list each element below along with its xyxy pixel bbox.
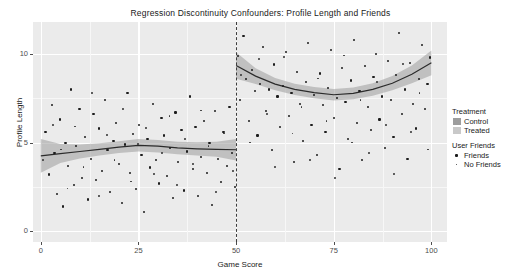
y-tick-label: 10 — [10, 49, 28, 58]
legend-swatch-icon — [452, 118, 461, 126]
data-point-no-friends — [122, 108, 124, 110]
legend-item[interactable]: No Friends — [452, 160, 521, 169]
data-point-no-friends — [368, 152, 370, 154]
data-point-friends — [353, 39, 355, 41]
x-tickmark — [138, 242, 139, 245]
data-point-friends — [344, 101, 346, 103]
data-point-friends — [415, 127, 417, 129]
data-point-friends — [138, 124, 140, 126]
legend-group-title: Treatment — [452, 107, 521, 116]
data-point-no-friends — [106, 134, 108, 136]
x-tick-label: 0 — [26, 246, 56, 255]
data-point-friends — [256, 134, 258, 136]
data-point-no-friends — [309, 159, 311, 161]
y-axis-title: Profile Length — [15, 63, 24, 183]
x-tick-label: 75 — [319, 246, 349, 255]
legend-item[interactable]: Control — [452, 117, 521, 126]
data-point-friends — [310, 124, 312, 126]
data-point-friends — [140, 154, 142, 156]
data-point-friends — [44, 131, 46, 133]
data-point-friends — [421, 44, 423, 46]
data-point-friends — [424, 108, 426, 110]
legend-group: User FriendsFriendsNo Friends — [452, 141, 521, 169]
x-axis-title: Game Score — [0, 260, 480, 269]
data-point-friends — [158, 182, 160, 184]
data-point-no-friends — [91, 92, 93, 94]
data-point-friends — [118, 163, 120, 165]
data-point-friends — [48, 173, 50, 175]
data-point-friends — [268, 88, 270, 90]
x-tick-label: 25 — [123, 246, 153, 255]
data-point-friends — [90, 158, 92, 160]
data-point-friends — [180, 129, 182, 131]
data-point-friends — [220, 181, 222, 183]
data-point-no-friends — [98, 195, 100, 197]
y-tickmark — [30, 143, 33, 144]
data-point-friends — [378, 118, 380, 120]
data-point-friends — [384, 147, 386, 149]
data-point-friends — [418, 78, 420, 80]
data-point-friends — [251, 69, 253, 71]
data-point-friends — [149, 166, 151, 168]
chart-title: Regression Discontinuity Confounders: Pr… — [0, 8, 521, 18]
data-point-no-friends — [52, 124, 54, 126]
x-tickmark — [236, 242, 237, 245]
data-point-friends — [200, 156, 202, 158]
plot-panel — [33, 22, 447, 242]
legend-item[interactable]: Treated — [452, 126, 521, 135]
legend-item-label: Treated — [464, 126, 490, 135]
legend: TreatmentControlTreatedUser FriendsFrien… — [452, 107, 521, 175]
data-point-friends — [350, 79, 352, 81]
data-point-friends — [299, 103, 301, 105]
x-tick-label: 100 — [416, 246, 446, 255]
data-point-no-friends — [184, 138, 186, 140]
legend-item[interactable]: Friends — [452, 151, 521, 160]
data-point-friends — [112, 140, 114, 142]
data-point-no-friends — [137, 143, 139, 145]
data-point-friends — [98, 127, 100, 129]
data-point-friends — [124, 143, 126, 145]
data-point-friends — [160, 117, 162, 119]
x-tick-label: 50 — [221, 246, 251, 255]
data-point-friends — [288, 115, 290, 117]
data-point-friends — [78, 108, 80, 110]
data-point-friends — [152, 103, 154, 105]
data-point-friends — [282, 85, 284, 87]
data-point-friends — [132, 133, 134, 135]
data-point-friends — [319, 72, 321, 74]
data-point-no-friends — [42, 159, 44, 161]
legend-swatch-icon — [452, 127, 461, 135]
legend-dot-icon — [452, 152, 461, 160]
data-point-friends — [358, 90, 360, 92]
data-point-friends — [262, 46, 264, 48]
data-point-friends — [271, 149, 273, 151]
data-point-friends — [429, 56, 431, 58]
confidence-ribbon — [236, 50, 431, 100]
data-point-friends — [381, 95, 383, 97]
legend-group: TreatmentControlTreated — [452, 107, 521, 135]
data-point-friends — [62, 205, 64, 207]
data-point-friends — [296, 71, 298, 73]
data-point-friends — [406, 158, 408, 160]
data-point-friends — [87, 198, 89, 200]
cutoff-line — [236, 22, 237, 242]
data-point-no-friends — [258, 58, 260, 60]
y-tick-label: 0 — [10, 226, 28, 235]
fit-layer — [33, 22, 447, 242]
legend-dot-icon — [452, 161, 461, 169]
data-point-friends — [290, 92, 292, 94]
data-point-no-friends — [232, 170, 234, 172]
data-point-friends — [276, 95, 278, 97]
data-point-friends — [189, 95, 191, 97]
data-point-friends — [217, 158, 219, 160]
data-point-friends — [302, 140, 304, 142]
x-tickmark — [41, 242, 42, 245]
data-point-friends — [183, 189, 185, 191]
data-point-friends — [146, 138, 148, 140]
data-point-friends — [390, 99, 392, 101]
data-point-friends — [126, 92, 128, 94]
data-point-no-friends — [334, 177, 336, 179]
data-point-friends — [426, 83, 428, 85]
legend-item-label: No Friends — [464, 160, 501, 169]
data-point-friends — [106, 149, 108, 151]
